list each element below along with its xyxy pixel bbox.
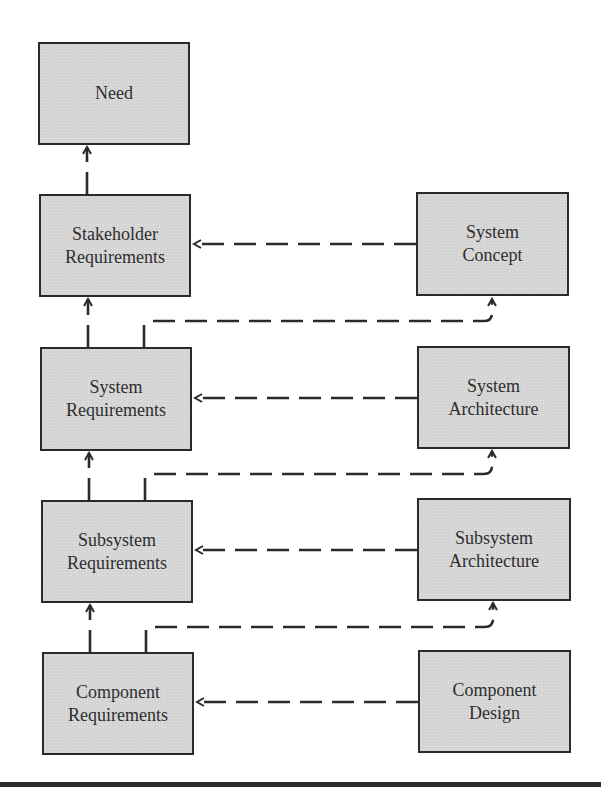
need-label: Need xyxy=(95,82,133,105)
edge-subsystem-req-to-system-architecture xyxy=(145,451,492,500)
requirements-flow-diagram: Need Stakeholder Requirements System Req… xyxy=(0,0,601,802)
component-requirements-box: Component Requirements xyxy=(42,652,194,755)
system-architecture-label: System Architecture xyxy=(449,375,539,421)
component-design-box: Component Design xyxy=(418,650,571,753)
edge-system-req-to-system-concept xyxy=(144,299,492,347)
bottom-divider-rule xyxy=(0,782,601,787)
system-requirements-label: System Requirements xyxy=(66,376,166,422)
subsystem-architecture-box: Subsystem Architecture xyxy=(417,498,571,601)
system-requirements-box: System Requirements xyxy=(40,347,192,451)
system-concept-box: System Concept xyxy=(416,192,569,296)
system-concept-label: System Concept xyxy=(463,221,523,267)
need-box: Need xyxy=(38,42,190,145)
component-design-label: Component Design xyxy=(453,679,537,725)
component-requirements-label: Component Requirements xyxy=(68,681,168,727)
subsystem-architecture-label: Subsystem Architecture xyxy=(449,527,539,573)
subsystem-requirements-label: Subsystem Requirements xyxy=(67,529,167,575)
system-architecture-box: System Architecture xyxy=(417,346,570,449)
subsystem-requirements-box: Subsystem Requirements xyxy=(41,500,193,603)
stakeholder-requirements-label: Stakeholder Requirements xyxy=(65,223,165,269)
edge-component-req-to-subsystem-architecture xyxy=(146,603,493,652)
stakeholder-requirements-box: Stakeholder Requirements xyxy=(39,194,191,297)
